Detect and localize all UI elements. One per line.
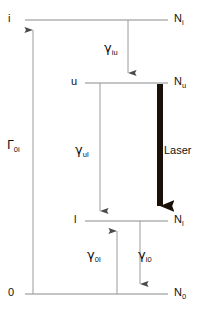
- rate-subscript-0l: 0l: [95, 255, 101, 264]
- population-label-i: Ni: [174, 13, 184, 24]
- rate-symbol-gamma-ul: γ: [75, 142, 83, 157]
- rate-subscript-ul: ul: [83, 150, 89, 159]
- energy-level-diagram: i u l 0 Ni Nu Nl N0 Γ0i γiu γul γ0l γl0 …: [0, 0, 202, 311]
- population-symbol-N-l: N: [174, 213, 182, 225]
- rate-label-gamma-ul: γul: [75, 143, 89, 156]
- population-subscript-i: i: [182, 18, 184, 27]
- rate-subscript-iu: iu: [112, 48, 118, 57]
- population-subscript-0: 0: [182, 292, 186, 301]
- rate-label-Gamma-0i: Γ0i: [7, 138, 20, 151]
- rate-label-gamma-l0: γl0: [138, 248, 152, 261]
- level-label-i: i: [8, 13, 10, 24]
- rate-symbol-gamma-0l: γ: [87, 247, 95, 262]
- population-label-0: N0: [174, 287, 186, 298]
- rate-subscript-0i: 0i: [14, 145, 20, 154]
- population-subscript-u: u: [182, 81, 186, 90]
- level-label-0: 0: [8, 287, 14, 298]
- level-label-u: u: [71, 76, 77, 87]
- population-subscript-l: l: [182, 219, 184, 228]
- population-symbol-N-u: N: [174, 75, 182, 87]
- population-symbol-N-0: N: [174, 286, 182, 298]
- rate-label-gamma-0l: γ0l: [87, 248, 101, 261]
- rate-label-gamma-iu: γiu: [104, 41, 118, 54]
- rate-subscript-l0: l0: [146, 255, 152, 264]
- population-label-u: Nu: [174, 76, 186, 87]
- rate-symbol-Gamma: Γ: [7, 138, 14, 152]
- level-label-l: l: [74, 214, 76, 225]
- rate-symbol-gamma-l0: γ: [138, 247, 146, 262]
- laser-label: Laser: [164, 145, 192, 156]
- population-symbol-N-i: N: [174, 12, 182, 24]
- rate-symbol-gamma-iu: γ: [104, 40, 112, 55]
- population-label-l: Nl: [174, 214, 184, 225]
